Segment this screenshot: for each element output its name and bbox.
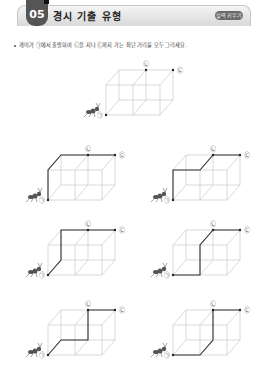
start-point xyxy=(172,199,174,201)
level-badge: 실력 키우기 xyxy=(215,11,243,20)
end-point xyxy=(114,229,116,231)
label-start: ㉠ xyxy=(97,111,103,119)
shortest-path xyxy=(48,155,115,200)
shortest-path xyxy=(48,310,115,355)
cube-edge xyxy=(75,260,88,275)
cube-edge xyxy=(102,155,115,170)
label-end: ㉢ xyxy=(119,306,125,314)
cube-edge xyxy=(173,260,186,275)
via-point xyxy=(87,309,89,311)
figure-answer-5: ㉠㉡㉢ xyxy=(12,298,132,373)
via-point xyxy=(212,309,214,311)
label-end: ㉢ xyxy=(244,151,250,159)
label-start: ㉠ xyxy=(39,351,45,359)
start-point xyxy=(47,274,49,276)
label-end: ㉢ xyxy=(119,151,125,159)
label-end: ㉢ xyxy=(119,226,125,234)
section-title: 경시 기출 유형 xyxy=(53,8,122,23)
instruction: 개미가 ㉠에서 출발하여 ㉡을 지나 ㉢까지 가는 최단 거리를 모두 그리세요… xyxy=(14,41,187,48)
figure-answer-1: ㉠㉡㉢ xyxy=(12,143,132,218)
cube-edge xyxy=(200,260,213,275)
shortest-path xyxy=(173,155,240,200)
start-point xyxy=(105,114,107,116)
cube-edge xyxy=(75,230,88,245)
label-start: ㉠ xyxy=(164,196,170,204)
cube-edge xyxy=(102,340,115,355)
end-point xyxy=(239,309,241,311)
cube-edge xyxy=(48,185,61,200)
shortest-path xyxy=(48,230,115,275)
end-point xyxy=(239,229,241,231)
end-point xyxy=(239,154,241,156)
label-via: ㉡ xyxy=(210,300,216,308)
label-via: ㉡ xyxy=(85,300,91,308)
start-point xyxy=(172,274,174,276)
instruction-text: 개미가 ㉠에서 출발하여 ㉡을 지나 ㉢까지 가는 최단 거리를 모두 그리세요… xyxy=(19,42,187,48)
via-point xyxy=(87,229,89,231)
cube-edge xyxy=(102,260,115,275)
end-point xyxy=(114,154,116,156)
cube-edge xyxy=(133,100,146,115)
cube-edge xyxy=(106,70,119,85)
cube-edge xyxy=(173,155,186,170)
cube-edge xyxy=(160,70,173,85)
end-point xyxy=(114,309,116,311)
shortest-path xyxy=(173,310,240,355)
cube-edge xyxy=(173,340,186,355)
figure-answer-2: ㉠㉡㉢ xyxy=(137,143,257,218)
cube-edge xyxy=(75,310,88,325)
cube-edge xyxy=(160,100,173,115)
start-point xyxy=(172,354,174,356)
label-end: ㉢ xyxy=(244,306,250,314)
cube-edge xyxy=(48,310,61,325)
cube-edge xyxy=(102,230,115,245)
cube-edge xyxy=(173,185,186,200)
via-point xyxy=(212,154,214,156)
cube-edge xyxy=(227,155,240,170)
cube-edge xyxy=(75,185,88,200)
cube-edge xyxy=(133,70,146,85)
start-point xyxy=(47,199,49,201)
cube-edge xyxy=(173,310,186,325)
cube-edge xyxy=(106,100,119,115)
label-start: ㉠ xyxy=(39,196,45,204)
figure-answer-3: ㉠㉡㉢ xyxy=(12,218,132,293)
figure-example: ㉠㉡㉢ xyxy=(70,58,190,133)
via-point xyxy=(87,154,89,156)
cube-edge xyxy=(75,340,88,355)
cube-edge xyxy=(102,310,115,325)
via-point xyxy=(145,69,147,71)
cube-edge xyxy=(200,185,213,200)
cube-edge xyxy=(227,340,240,355)
label-via: ㉡ xyxy=(210,145,216,153)
cube-edge xyxy=(227,260,240,275)
shortest-path xyxy=(173,230,240,275)
label-via: ㉡ xyxy=(143,60,149,68)
start-point xyxy=(47,354,49,356)
label-via: ㉡ xyxy=(210,220,216,228)
label-start: ㉠ xyxy=(164,271,170,279)
label-start: ㉠ xyxy=(164,351,170,359)
tab-marker xyxy=(44,0,49,4)
cube-edge xyxy=(227,230,240,245)
label-via: ㉡ xyxy=(85,220,91,228)
cube-edge xyxy=(227,310,240,325)
figure-answer-6: ㉠㉡㉢ xyxy=(137,298,257,373)
figure-answer-4: ㉠㉡㉢ xyxy=(137,218,257,293)
bullet-icon xyxy=(14,45,16,47)
via-point xyxy=(212,229,214,231)
cube-edge xyxy=(75,155,88,170)
cube-edge xyxy=(200,310,213,325)
label-via: ㉡ xyxy=(85,145,91,153)
cube-edge xyxy=(48,230,61,245)
cube-edge xyxy=(227,185,240,200)
cube-edge xyxy=(173,230,186,245)
label-end: ㉢ xyxy=(177,66,183,74)
end-point xyxy=(172,69,174,71)
label-end: ㉢ xyxy=(244,226,250,234)
cube-edge xyxy=(102,185,115,200)
label-start: ㉠ xyxy=(39,271,45,279)
